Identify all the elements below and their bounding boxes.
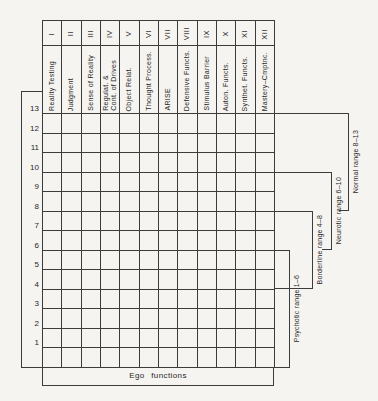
column-numeral-cell: V — [119, 22, 138, 46]
column-numeral: X — [222, 31, 230, 37]
borderline-range-bracket — [312, 211, 313, 289]
column-numeral-cell: IX — [197, 22, 216, 46]
normal-range-bracket — [348, 113, 349, 211]
column-label: Object Relat. — [125, 67, 133, 111]
y-axis-tick-label: 10 — [20, 163, 39, 173]
column-labels-row: Reality Testing Judgment Sense of Realit… — [42, 46, 274, 114]
borderline-range-label-box: Borderline range 4–8 — [314, 211, 326, 289]
header-divider-line — [42, 45, 275, 46]
borderline-range-top-line — [274, 211, 312, 212]
column-label-cell: Auton. Functs. — [216, 46, 235, 114]
borderline-range-label: Borderline range 4–8 — [316, 215, 324, 284]
y-axis-tick-label: 7 — [20, 221, 39, 231]
y-axis-tick-label: 12 — [20, 124, 39, 134]
y-axis-tick-label: 5 — [20, 260, 39, 270]
column-numeral: IV — [106, 30, 114, 38]
column-label-cell: Thought Process. — [139, 46, 158, 114]
column-numeral: III — [87, 30, 95, 38]
column-numeral-cell: I — [42, 22, 61, 46]
psychotic-range-label-box: Psychotic range 1–6 — [291, 250, 303, 367]
column-numeral-cell: VII — [158, 22, 177, 46]
column-label: Reality Testing — [48, 61, 56, 111]
column-label-cell: Stimulus Barrier — [197, 46, 216, 114]
grid-bottom-line — [21, 367, 290, 368]
column-label-cell: Mastery–Cmptnc. — [255, 46, 274, 114]
column-numeral: I — [48, 33, 56, 36]
y-axis-top-tick — [21, 91, 43, 92]
column-numeral-cell: VI — [139, 22, 158, 46]
column-label-cell: ARISE — [158, 46, 177, 114]
column-label: Regulat. & Cont. of Drives — [102, 60, 117, 111]
score-grid — [42, 113, 275, 367]
y-axis-tick-label: 3 — [20, 299, 39, 309]
column-numeral-cell: III — [81, 22, 100, 46]
y-axis-tick-label: 1 — [20, 338, 39, 348]
column-numeral-cell: IV — [100, 22, 119, 46]
column-label-cell: Sense of Reality — [81, 46, 100, 114]
column-header-grid: I II III IV V VI VII VIII IX X XI XII Re… — [42, 20, 275, 114]
x-axis-title: Ego functions — [42, 370, 274, 382]
column-label-cell: Reality Testing — [42, 46, 61, 114]
neurotic-range-top-line — [274, 172, 331, 173]
column-numeral: V — [125, 31, 133, 37]
column-numeral: VIII — [183, 27, 191, 40]
column-label: Stimulus Barrier — [203, 56, 211, 111]
column-numeral-cell: XI — [235, 22, 254, 46]
column-numeral: VII — [164, 29, 172, 40]
y-axis-tick-label: 11 — [20, 143, 39, 153]
normal-range-label-box: Normal range 8–13 — [350, 113, 362, 211]
column-numeral-cell: VIII — [177, 22, 196, 46]
column-label: Sense of Reality — [87, 55, 95, 111]
y-axis-tick-label: 6 — [20, 241, 39, 251]
column-numeral: VI — [145, 30, 153, 38]
y-axis-tick-label: 2 — [20, 319, 39, 329]
normal-range-top-line — [274, 113, 348, 114]
column-label: Defensive Functs. — [183, 50, 191, 111]
column-numeral-cell: II — [61, 22, 80, 46]
column-numeral: II — [67, 31, 75, 36]
ego-function-profile-figure: I II III IV V VI VII VIII IX X XI XII Re… — [0, 0, 378, 401]
y-axis-tick-label: 13 — [20, 104, 39, 114]
normal-range-label: Normal range 8–13 — [352, 130, 360, 193]
neurotic-range-label: Neurotic range 6–10 — [335, 177, 343, 244]
column-numeral: XI — [241, 30, 249, 38]
psychotic-range-top-line — [274, 250, 289, 251]
column-label-cell: Object Relat. — [119, 46, 138, 114]
column-numeral-cell: XII — [255, 22, 274, 46]
column-numeral: XII — [261, 29, 269, 40]
column-label: Synthet. Functs. — [241, 56, 249, 111]
y-axis-tick-label: 9 — [20, 182, 39, 192]
psychotic-range-label: Psychotic range 1–6 — [293, 275, 301, 342]
column-numeral-cell: X — [216, 22, 235, 46]
y-axis-tick-label: 4 — [20, 280, 39, 290]
column-label: ARISE — [164, 88, 172, 111]
y-axis-tick-label: 8 — [20, 202, 39, 212]
column-numerals-row: I II III IV V VI VII VIII IX X XI XII — [42, 22, 274, 46]
column-numeral: IX — [203, 30, 211, 38]
column-label-cell: Regulat. & Cont. of Drives — [100, 46, 119, 114]
column-label-cell: Synthet. Functs. — [235, 46, 254, 114]
neurotic-range-bracket — [331, 172, 332, 250]
column-label: Mastery–Cmptnc. — [261, 52, 269, 111]
column-label-cell: Defensive Functs. — [177, 46, 196, 114]
psychotic-range-bracket — [289, 250, 290, 368]
ego-bracket-bottom — [42, 385, 274, 386]
neurotic-range-label-box: Neurotic range 6–10 — [333, 172, 345, 250]
column-label: Judgment — [67, 78, 75, 111]
column-label: Thought Process. — [145, 51, 153, 111]
column-label: Auton. Functs. — [222, 62, 230, 111]
column-label-cell: Judgment — [61, 46, 80, 114]
